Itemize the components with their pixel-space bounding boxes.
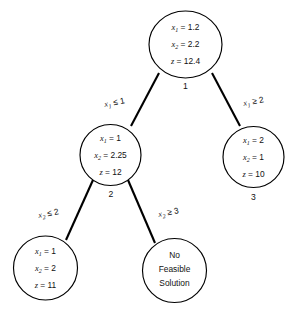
node-4-value-z: 11	[48, 280, 57, 290]
node-1-text-group: x1 = 1.2 x2 = 2.2 z = 12.4	[170, 22, 200, 66]
edge-label-x2-ge-3: x2 ≥ 3	[156, 205, 180, 220]
node-2-line-1: x1 = 1	[99, 133, 121, 144]
node-5-line-2: Feasible	[159, 264, 191, 274]
node-4-line-3: z = 11	[34, 280, 57, 290]
tree-svg-canvas: x1 = 1.2 x2 = 2.2 z = 12.4 x1 = 1 x2 = 2…	[0, 0, 300, 314]
edge-label-x1-le-1: x1 ≤ 1	[102, 95, 126, 110]
node-number-3: 3	[251, 192, 256, 202]
node-4-line-1: x1 = 1	[34, 246, 56, 257]
node-2-line-3: z = 12	[98, 167, 121, 177]
node-number-2: 2	[109, 189, 114, 199]
node-4-value-x1: 1	[51, 246, 56, 256]
node-2-value-z: 12	[112, 167, 122, 177]
branch-and-bound-diagram: x1 = 1.2 x2 = 2.2 z = 12.4 x1 = 1 x2 = 2…	[0, 0, 300, 314]
node-1-value-x2: 2.2	[188, 39, 200, 49]
node-3-value-x2: 1	[259, 152, 264, 162]
edge-2-5-value: 3	[173, 205, 180, 216]
node-3-line-3: z = 10	[241, 169, 264, 179]
node-4-value-x2: 2	[51, 263, 56, 273]
node-4-line-2: x2 = 2	[34, 263, 56, 274]
edge-root-to-left	[131, 73, 159, 126]
edge-root-to-right	[212, 73, 240, 126]
node-4-text-group: x1 = 1 x2 = 2 z = 11	[34, 246, 57, 290]
node-3-value-z: 10	[255, 169, 265, 179]
node-5-line-3: Solution	[159, 278, 190, 288]
node-3-text-group: x1 = 2 x2 = 1 z = 10	[241, 135, 264, 179]
node-1-line-2: x2 = 2.2	[171, 39, 200, 50]
edge-1-2-value: 1	[119, 95, 126, 106]
node-1-value-x1: 1.2	[188, 22, 200, 32]
node-3-line-2: x2 = 1	[242, 152, 264, 163]
edge-2-4-value: 2	[53, 206, 60, 217]
node-1-line-1: x1 = 1.2	[171, 22, 200, 33]
edge-1-3-value: 2	[258, 94, 265, 105]
node-1-line-3: z = 12.4	[170, 56, 200, 66]
node-2-value-x2: 2.25	[110, 150, 127, 160]
edge-left-to-child-feasible	[66, 180, 93, 240]
edge-left-to-child-infeasible	[128, 180, 155, 243]
node-2-value-x1: 1	[116, 133, 121, 143]
node-number-1: 1	[183, 81, 188, 91]
edge-label-x1-ge-2: x1 ≥ 2	[241, 94, 265, 109]
edge-label-x2-le-2: x2 ≤ 2	[36, 206, 60, 221]
node-3-line-1: x1 = 2	[242, 135, 264, 146]
node-5-line-1: No	[169, 250, 180, 260]
node-1-value-z: 12.4	[184, 56, 201, 66]
node-3-value-x1: 2	[259, 135, 264, 145]
